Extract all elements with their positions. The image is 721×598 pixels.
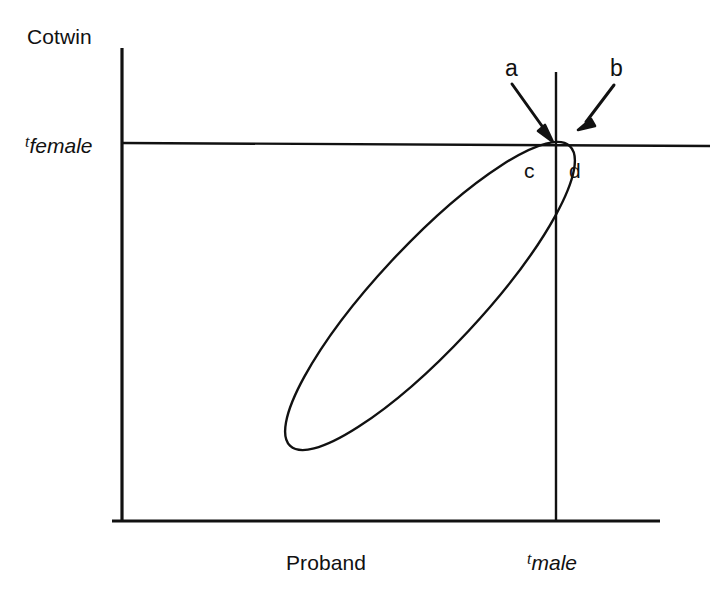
y-axis-title: Cotwin <box>27 26 92 47</box>
callout-label-a: a <box>505 57 518 80</box>
figure-canvas <box>0 0 721 598</box>
callout-arrow-b <box>578 85 614 130</box>
callout-label-b: b <box>610 57 623 80</box>
threshold-label-male: tmale <box>527 550 577 575</box>
callout-arrow-a <box>512 84 553 142</box>
threshold-label-female: tfemale <box>25 133 92 158</box>
liability-ellipse <box>252 111 608 482</box>
region-label-d: d <box>569 160 581 181</box>
threshold-male-subscript: male <box>531 551 577 574</box>
twin-threshold-liability-figure: Cotwin Proband tfemale tmale a b c d <box>0 0 721 598</box>
region-label-c: c <box>524 160 535 181</box>
x-axis-title: Proband <box>286 552 366 573</box>
threshold-female-subscript: female <box>29 134 92 157</box>
threshold-line-female <box>122 143 710 146</box>
